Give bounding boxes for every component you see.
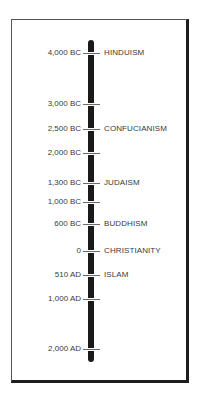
religion-label: CONFUCIANISM	[104, 124, 167, 134]
date-label: 2,000 BC	[48, 148, 81, 158]
date-label: 1,000 AD	[48, 294, 81, 304]
date-label: 0	[77, 246, 81, 256]
tick-mark	[83, 52, 100, 55]
date-label: 2,000 AD	[48, 344, 81, 354]
date-label: 1,000 BC	[48, 197, 81, 207]
date-label: 2,500 BC	[48, 124, 81, 134]
date-label: 3,000 BC	[48, 99, 81, 109]
tick-mark	[83, 298, 100, 301]
date-label: 4,000 BC	[48, 48, 81, 58]
religion-label: JUDAISM	[104, 178, 140, 188]
tick-mark	[83, 182, 100, 185]
tick-mark	[83, 152, 100, 155]
tick-mark	[83, 274, 100, 277]
religion-label: ISLAM	[104, 270, 129, 280]
religion-label: CHRISTIANITY	[104, 246, 161, 256]
diagram-frame	[11, 19, 189, 383]
tick-mark	[83, 348, 100, 351]
religion-label: HINDUISM	[104, 48, 144, 58]
tick-mark	[83, 201, 100, 204]
tick-mark	[83, 103, 100, 106]
tick-mark	[83, 128, 100, 131]
date-label: 1,300 BC	[48, 178, 81, 188]
tick-mark	[83, 250, 100, 253]
date-label: 510 AD	[55, 270, 81, 280]
religion-label: BUDDHISM	[104, 219, 147, 229]
tick-mark	[83, 223, 100, 226]
date-label: 600 BC	[54, 219, 81, 229]
